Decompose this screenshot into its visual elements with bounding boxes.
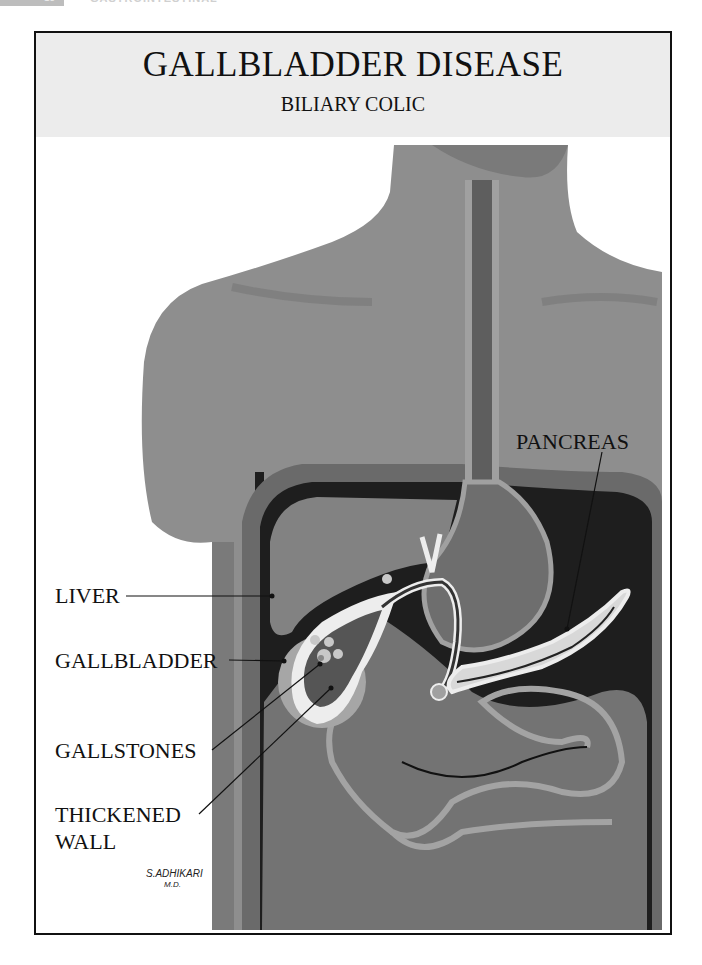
label-thickened-wall-line2: WALL (55, 828, 181, 855)
label-thickened-wall-line1: THICKENED (55, 801, 181, 828)
chapter-title: GASTROINTESTINAL (90, 0, 218, 4)
label-gallstones: GALLSTONES (55, 737, 196, 764)
label-thickened-wall: THICKENED WALL (55, 801, 181, 855)
page-number: 18 (44, 0, 55, 3)
artist-signature: S.ADHIKARI M.D. (146, 868, 203, 890)
page-header: 18 GASTROINTESTINAL (0, 0, 702, 6)
figure-frame: GALLBLADDER DISEASE BILIARY COLIC (34, 31, 672, 935)
anatomy-illustration (36, 33, 670, 933)
signature-credential: M.D. (146, 879, 203, 890)
label-pancreas: PANCREAS (516, 428, 629, 455)
label-liver: LIVER (55, 582, 120, 609)
signature-name: S.ADHIKARI (146, 868, 203, 879)
label-gallbladder: GALLBLADDER (55, 647, 218, 674)
